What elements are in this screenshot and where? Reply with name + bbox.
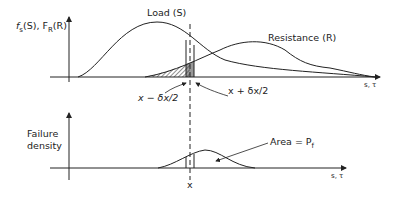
hatched-overlap-region (145, 63, 190, 77)
leader-right (196, 83, 228, 96)
top-plot (50, 17, 380, 96)
left-bound-label: x − δx/2 (138, 93, 178, 103)
F-argument: (R) (53, 20, 67, 31)
top-x-axis-label: s, τ (364, 82, 376, 89)
f-argument: (S), (23, 20, 42, 31)
bottom-x-axis-label: s, τ (331, 173, 343, 180)
bottom-y-axis-label: Failure density (27, 128, 62, 153)
resistance-label: Resistance (R) (268, 33, 336, 43)
failure-label: Failure (27, 128, 62, 140)
area-leader (216, 143, 268, 161)
area-text: Area = P (270, 136, 312, 147)
right-bound-label: x + δx/2 (228, 86, 268, 96)
area-label: Area = Pf (270, 137, 314, 150)
density-label: density (27, 140, 62, 152)
load-curve (78, 22, 375, 77)
top-y-axis-label: fs(S), FR(R) (16, 21, 67, 34)
area-subscript: f (312, 142, 314, 150)
x-marker-label: x (187, 180, 193, 190)
load-label: Load (S) (147, 8, 186, 18)
